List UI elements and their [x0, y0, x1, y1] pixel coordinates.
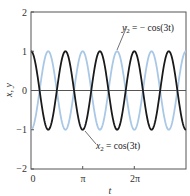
- ann-rhs: = cos(3t): [104, 141, 141, 152]
- y-tick-label: 1: [22, 46, 27, 57]
- y-tick-label: 2: [22, 7, 27, 18]
- annotation-x2: x2 = cos(3t): [95, 141, 140, 153]
- annotation-leader-x2: [85, 131, 96, 144]
- ann-rhs: = − cos(3t): [130, 23, 174, 34]
- y-tick-label: 0: [22, 85, 27, 96]
- x-tick-label: π: [80, 173, 85, 184]
- annotation-y2: y2 = − cos(3t): [121, 23, 174, 35]
- x-tick-label: 0: [31, 173, 36, 184]
- y-tick-label: −2: [16, 163, 27, 174]
- x-axis-label: t: [109, 185, 112, 196]
- y-axis-label: x, y: [3, 83, 14, 98]
- y-tick-label: −1: [16, 124, 27, 135]
- x-tick-label: 2π: [130, 173, 140, 184]
- chart: 2 1 0 −1 −2 0 π 2π t x, y y2 = − cos(3t)…: [0, 0, 190, 196]
